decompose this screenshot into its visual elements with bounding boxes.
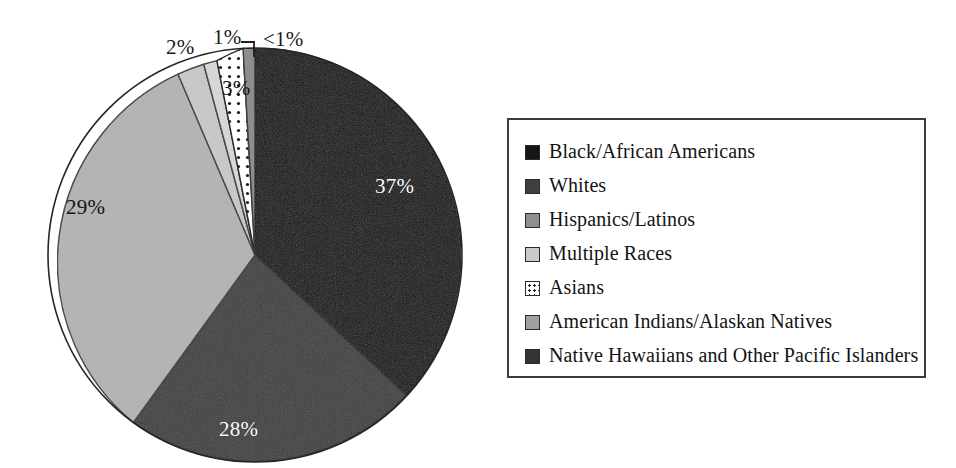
slice-value-label-native-hawaiians-pacific-islanders: <1% [263, 29, 303, 50]
slice-value-label-whites: 28% [219, 419, 258, 440]
legend-swatch-native-hawaiians-pacific-islanders [525, 349, 540, 364]
legend-item-asians[interactable]: Asians [525, 270, 924, 304]
legend-label-hispanics-latinos: Hispanics/Latinos [549, 209, 695, 229]
legend-item-whites[interactable]: Whites [525, 168, 924, 202]
legend-swatch-american-indians-alaskan-natives [525, 315, 540, 330]
slice-value-label-american-indians-alaskan-natives: 1% [213, 27, 241, 48]
pie-chart-plot-area: 37% 28% 29% 2% 3% 1% <1% [0, 0, 500, 468]
legend-label-black-african-americans: Black/African Americans [549, 141, 755, 161]
legend-swatch-multiple-races [525, 247, 540, 262]
legend-swatch-whites [525, 179, 540, 194]
legend-swatch-hispanics-latinos [525, 213, 540, 228]
slice-value-label-multiple-races: 2% [166, 37, 194, 58]
legend-swatch-black-african-americans [525, 145, 540, 160]
pie-chart-svg [0, 0, 500, 468]
legend-label-american-indians-alaskan-natives: American Indians/Alaskan Natives [549, 311, 832, 331]
legend-label-native-hawaiians-pacific-islanders: Native Hawaiians and Other Pacific Islan… [549, 345, 918, 365]
slice-value-label-black-african-americans: 37% [375, 176, 414, 197]
chart-legend: Black/African Americans Whites Hispanics… [507, 118, 926, 378]
legend-item-hispanics-latinos[interactable]: Hispanics/Latinos [525, 202, 924, 236]
legend-item-native-hawaiians-pacific-islanders[interactable]: Native Hawaiians and Other Pacific Islan… [525, 338, 924, 372]
legend-swatch-asians [525, 281, 540, 296]
pie-chart-figure: 37% 28% 29% 2% 3% 1% <1% Black/African A… [0, 0, 956, 468]
legend-label-multiple-races: Multiple Races [549, 243, 672, 263]
legend-item-american-indians-alaskan-natives[interactable]: American Indians/Alaskan Natives [525, 304, 924, 338]
legend-label-asians: Asians [549, 277, 604, 297]
legend-label-whites: Whites [549, 175, 606, 195]
legend-item-multiple-races[interactable]: Multiple Races [525, 236, 924, 270]
slice-value-label-asians: 3% [222, 78, 250, 99]
slice-value-label-hispanics-latinos: 29% [66, 197, 105, 218]
legend-item-black-african-americans[interactable]: Black/African Americans [525, 134, 924, 168]
